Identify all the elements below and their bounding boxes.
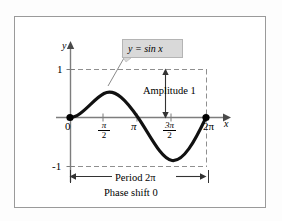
y-axis [67,41,74,182]
curve-label-text: y = sin x [128,44,163,54]
x-tick-label-0: 0 [65,121,71,132]
x-tick-label-pi-over-2: π 2 [98,121,110,141]
callout-leader-line [108,56,131,86]
y-tick-label-minus-1: -1 [52,161,61,172]
x-tick-3pi2-numerator: 3π [163,121,176,130]
x-tick-label-2pi: 2π [203,121,214,132]
amplitude-label: Amplitude 1 [143,86,196,97]
y-axis-label: y [62,41,66,51]
y-tick-label-1: 1 [57,64,63,75]
figure-root: y = sin x y x 1 -1 0 π 2 π 3π 2 2π Ampli… [0,0,282,221]
period-label: Period 2π [115,173,156,184]
sine-curve [70,92,206,160]
x-axis-label: x [224,119,228,129]
x-tick-label-3pi-over-2: 3π 2 [163,121,176,141]
x-tick-pi2-denominator: 2 [98,130,110,140]
phase-shift-label: Phase shift 0 [104,188,158,199]
x-tick-3pi2-denominator: 2 [163,130,176,140]
x-tick-pi2-numerator: π [98,121,110,130]
x-tick-label-pi: π [131,121,137,132]
